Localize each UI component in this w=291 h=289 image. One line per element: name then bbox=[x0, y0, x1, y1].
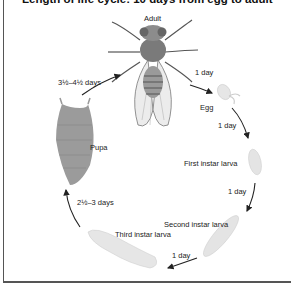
adult-fly-icon bbox=[108, 20, 198, 126]
arrow-first-to-second bbox=[247, 183, 255, 211]
duration-adult-to-egg: 1 day bbox=[195, 68, 213, 77]
label-egg: Egg bbox=[200, 103, 213, 112]
duration-second-to-third: 1 day bbox=[172, 251, 190, 260]
arrow-third-to-pupa bbox=[66, 190, 80, 227]
second-instar-larva-icon bbox=[199, 212, 243, 261]
pupa-icon bbox=[56, 98, 94, 185]
label-second-instar-larva: Second instar larva bbox=[164, 220, 228, 229]
duration-egg-to-first: 1 day bbox=[218, 121, 236, 130]
egg-icon bbox=[215, 82, 240, 104]
duration-first-to-second: 1 day bbox=[228, 187, 246, 196]
first-instar-larva-icon bbox=[246, 148, 263, 176]
life-cycle-artwork bbox=[0, 0, 291, 289]
label-adult: Adult bbox=[144, 14, 161, 23]
label-first-instar-larva: First instar larva bbox=[184, 159, 237, 168]
duration-pupa-to-adult: 3½–4½ days bbox=[58, 78, 101, 87]
label-pupa: Pupa bbox=[90, 143, 108, 152]
arrow-adult-to-egg bbox=[190, 85, 212, 93]
duration-third-to-pupa: 2½–3 days bbox=[77, 198, 114, 207]
label-third-instar-larva: Third instar larva bbox=[115, 230, 171, 239]
